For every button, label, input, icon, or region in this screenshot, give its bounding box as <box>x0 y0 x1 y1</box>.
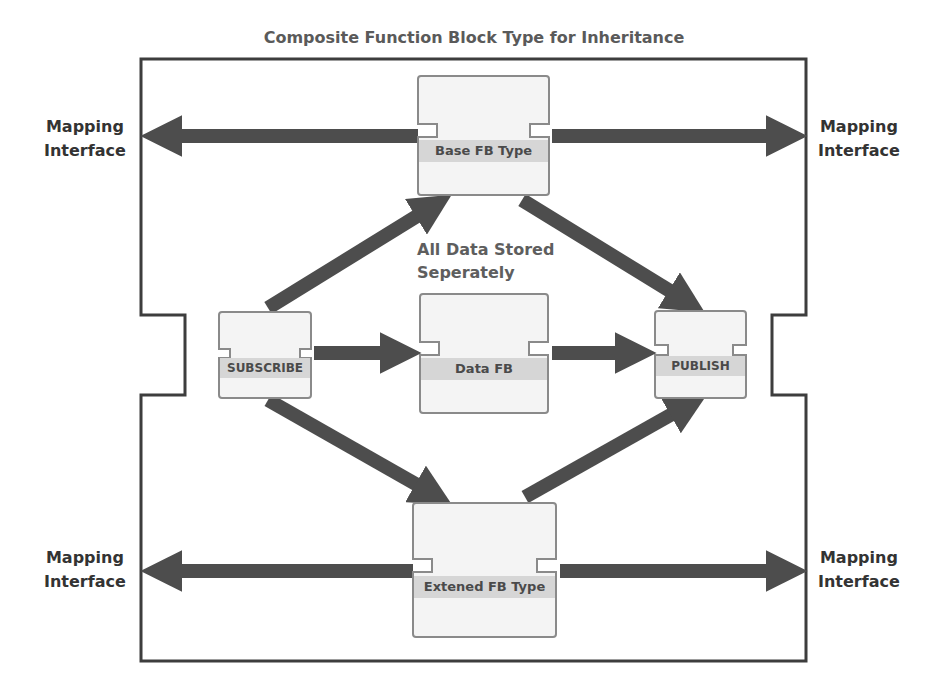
subscribe-block[interactable]: SUBSCRIBE <box>220 312 310 398</box>
base-fb-block[interactable]: Base FB Type <box>419 76 548 195</box>
data-storage-note: All Data Stored Seperately <box>417 238 554 284</box>
data-fb-block[interactable]: Data FB <box>421 294 547 413</box>
arrow-extended-to-publish <box>525 404 690 497</box>
mapping-interface-bottom-left: Mapping Interface <box>44 546 126 594</box>
mapping-interface-bottom-right: Mapping Interface <box>818 546 900 594</box>
publish-label: PUBLISH <box>656 356 745 376</box>
subscribe-label: SUBSCRIBE <box>220 358 310 378</box>
extended-fb-block[interactable]: Extened FB Type <box>414 503 555 637</box>
base-fb-label: Base FB Type <box>419 140 548 162</box>
note-line-2: Seperately <box>417 261 554 284</box>
arrow-subscribe-to-extended <box>268 400 435 495</box>
publish-block[interactable]: PUBLISH <box>656 311 745 398</box>
note-line-1: All Data Stored <box>417 238 554 261</box>
mapping-interface-top-right: Mapping Interface <box>818 115 900 163</box>
mapping-interface-top-left: Mapping Interface <box>44 115 126 163</box>
data-fb-label: Data FB <box>421 358 547 380</box>
arrow-subscribe-to-base <box>268 205 435 308</box>
extended-fb-label: Extened FB Type <box>414 576 555 598</box>
